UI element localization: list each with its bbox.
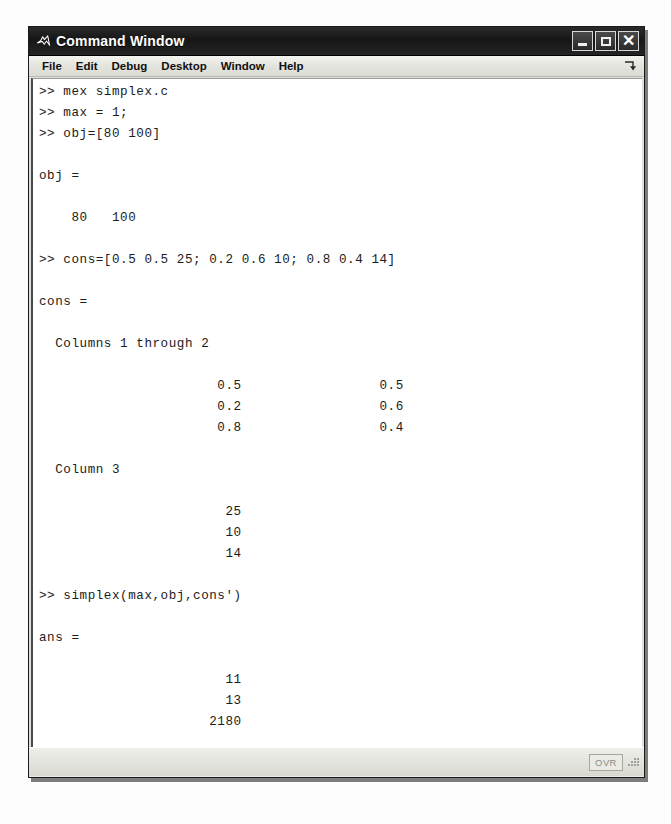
- menu-item-file[interactable]: File: [35, 57, 69, 76]
- console-transcript: >> mex simplex.c >> max = 1; >> obj=[80 …: [39, 82, 642, 747]
- menu-item-window[interactable]: Window: [214, 57, 272, 76]
- window-title: Command Window: [56, 33, 185, 49]
- menu-item-desktop[interactable]: Desktop: [154, 57, 213, 76]
- status-badge-ovr[interactable]: OVR: [589, 754, 623, 771]
- console-container: >> mex simplex.c >> max = 1; >> obj=[80 …: [29, 77, 644, 747]
- undock-arrow-icon[interactable]: [623, 59, 637, 73]
- resize-grip-icon[interactable]: [626, 755, 640, 769]
- menu-item-help[interactable]: Help: [272, 57, 311, 76]
- menu-item-debug[interactable]: Debug: [105, 57, 155, 76]
- matlab-icon: [36, 34, 51, 49]
- maximize-button[interactable]: [595, 31, 616, 51]
- window-controls: ✕: [572, 31, 639, 51]
- screenshot-root: Command Window ✕ File Edit Debug Desktop…: [0, 0, 671, 824]
- close-button[interactable]: ✕: [618, 31, 639, 51]
- minimize-icon: [578, 43, 587, 46]
- status-bar: OVR: [29, 747, 644, 776]
- menu-bar: File Edit Debug Desktop Window Help: [29, 56, 644, 77]
- command-window: Command Window ✕ File Edit Debug Desktop…: [28, 26, 645, 778]
- minimize-button[interactable]: [572, 31, 593, 51]
- title-bar[interactable]: Command Window ✕: [29, 27, 644, 56]
- maximize-icon: [601, 37, 611, 46]
- menu-item-edit[interactable]: Edit: [69, 57, 105, 76]
- command-window-output[interactable]: >> mex simplex.c >> max = 1; >> obj=[80 …: [31, 78, 642, 747]
- close-icon: ✕: [622, 33, 635, 49]
